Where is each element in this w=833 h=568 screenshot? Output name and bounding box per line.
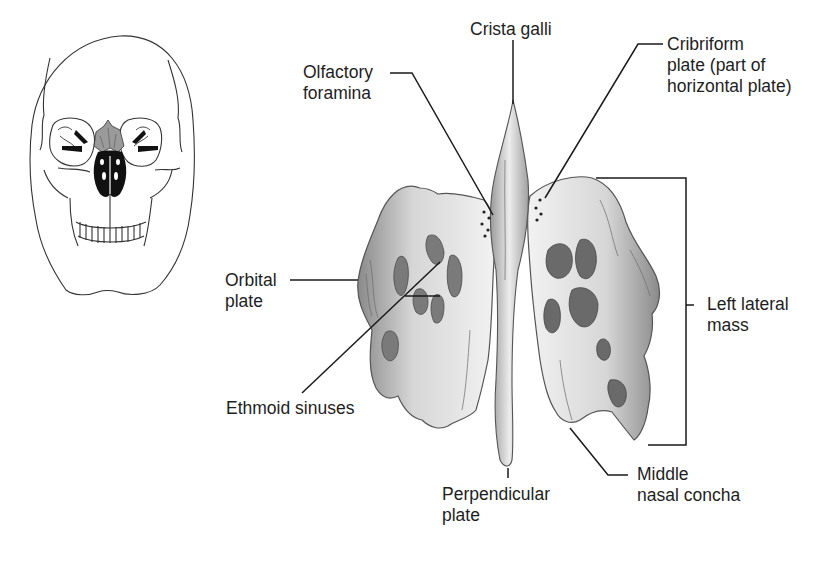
label-line: plate bbox=[225, 291, 277, 312]
label-ethmoid-sinuses: Ethmoid sinuses bbox=[226, 398, 354, 419]
label-line: Crista galli bbox=[470, 19, 552, 40]
label-crista-galli: Crista galli bbox=[470, 19, 552, 40]
label-line: Perpendicular bbox=[442, 484, 550, 505]
leader-ethmoid-sinuses bbox=[302, 262, 440, 393]
label-left-lateral-mass: Left lateral mass bbox=[707, 294, 789, 336]
label-line: Middle bbox=[637, 464, 740, 485]
label-line: Olfactory bbox=[303, 62, 373, 83]
label-line: foramina bbox=[303, 83, 373, 104]
label-line: plate (part of bbox=[667, 55, 792, 76]
label-line: Cribriform bbox=[667, 34, 792, 55]
label-line: plate bbox=[442, 505, 550, 526]
leader-olfactory-foramina bbox=[390, 73, 493, 215]
label-orbital-plate: Orbital plate bbox=[225, 270, 277, 312]
bracket-left-lateral-mass bbox=[596, 178, 694, 445]
leader-cribriform-plate bbox=[545, 44, 663, 198]
label-line: Ethmoid sinuses bbox=[226, 398, 354, 419]
label-cribriform-plate: Cribriform plate (part of horizontal pla… bbox=[667, 34, 792, 97]
right-lateral-mass bbox=[358, 186, 495, 428]
left-lateral-mass bbox=[528, 177, 660, 440]
label-line: nasal concha bbox=[637, 485, 740, 506]
label-olfactory-foramina: Olfactory foramina bbox=[303, 62, 373, 104]
label-line: Orbital bbox=[225, 270, 277, 291]
label-line: Left lateral bbox=[707, 294, 789, 315]
leader-middle-nasal-concha bbox=[570, 428, 628, 475]
label-middle-nasal-concha: Middle nasal concha bbox=[637, 464, 740, 506]
label-line: mass bbox=[707, 315, 789, 336]
crista-galli-shape bbox=[490, 100, 528, 466]
label-perpendicular-plate: Perpendicular plate bbox=[442, 484, 550, 526]
label-line: horizontal plate) bbox=[667, 76, 792, 97]
